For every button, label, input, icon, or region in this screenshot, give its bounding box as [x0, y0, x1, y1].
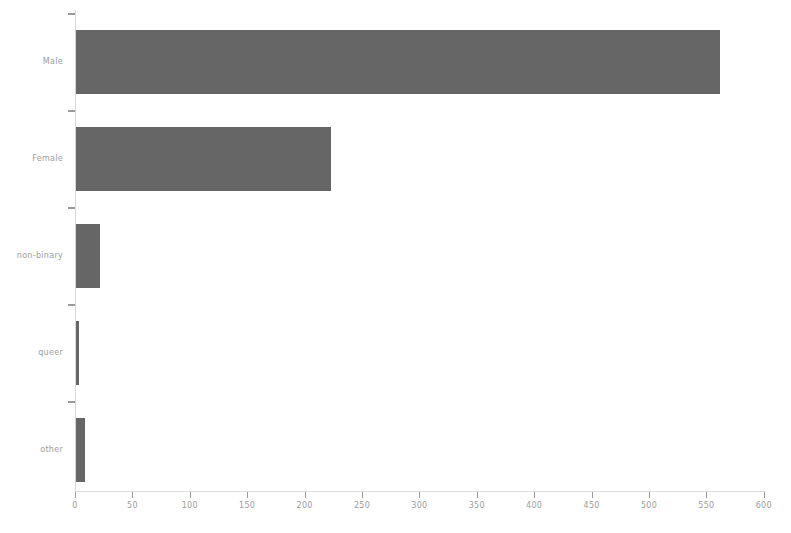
x-axis-tick: [534, 492, 535, 498]
x-axis-tick: [419, 492, 420, 498]
y-axis-tick: [68, 207, 75, 209]
y-axis-tick-label: queer: [0, 348, 63, 357]
x-axis-tick-label: 400: [514, 501, 554, 510]
x-axis-tick-label: 250: [342, 501, 382, 510]
x-axis-tick-label: 0: [55, 501, 95, 510]
plot-area: [75, 10, 765, 491]
x-axis-tick-label: 500: [629, 501, 669, 510]
y-axis-tick: [68, 401, 75, 403]
x-axis-tick: [649, 492, 650, 498]
x-axis-tick: [75, 492, 76, 498]
x-axis-tick-label: 300: [399, 501, 439, 510]
x-axis-tick-label: 450: [572, 501, 612, 510]
bar: [76, 127, 331, 191]
x-axis-tick: [247, 492, 248, 498]
y-axis-tick-label: non-binary: [0, 251, 63, 260]
x-axis-tick: [477, 492, 478, 498]
x-axis-tick-label: 50: [112, 501, 152, 510]
y-axis-tick: [68, 13, 75, 15]
bar: [76, 321, 79, 385]
x-axis-tick: [190, 492, 191, 498]
x-axis-tick-label: 550: [686, 501, 726, 510]
bar-chart: MaleFemalenon-binaryqueerother 050100150…: [0, 0, 791, 533]
x-axis-tick: [305, 492, 306, 498]
x-axis-tick-label: 350: [457, 501, 497, 510]
y-axis-tick: [68, 110, 75, 112]
x-axis-tick: [592, 492, 593, 498]
y-axis-tick: [68, 304, 75, 306]
x-axis-tick: [362, 492, 363, 498]
x-axis-tick-label: 200: [285, 501, 325, 510]
x-axis-tick-label: 150: [227, 501, 267, 510]
x-axis-tick: [706, 492, 707, 498]
y-axis-tick-label: Female: [0, 154, 63, 163]
bar: [76, 418, 85, 482]
y-axis-tick-label: other: [0, 445, 63, 454]
x-axis-tick: [764, 492, 765, 498]
y-axis-tick-label: Male: [0, 57, 63, 66]
x-axis-tick-label: 100: [170, 501, 210, 510]
x-axis-tick-label: 600: [744, 501, 784, 510]
y-axis-line: [75, 10, 76, 491]
bar: [76, 224, 100, 288]
x-axis-tick: [132, 492, 133, 498]
bar: [76, 30, 720, 94]
